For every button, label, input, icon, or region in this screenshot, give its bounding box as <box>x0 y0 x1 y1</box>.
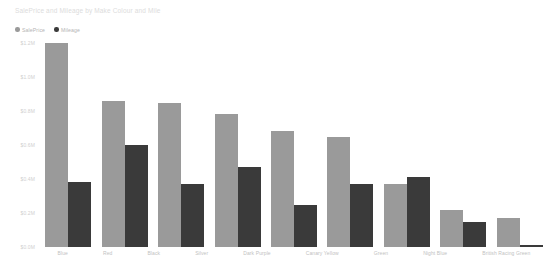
y-axis-tick-label: $0.0M <box>21 244 35 250</box>
bar-mileage[interactable] <box>181 184 204 247</box>
bar-mileage[interactable] <box>125 145 148 247</box>
y-axis-tick-label: $0.2M <box>21 210 35 216</box>
bar-mileage[interactable] <box>463 222 486 248</box>
bar-saleprice[interactable] <box>497 218 520 247</box>
bar-saleprice[interactable] <box>215 114 238 247</box>
x-axis-tick-label: Night Blue <box>423 250 447 256</box>
bar-group <box>271 43 317 247</box>
y-axis: $1.2M$1.0M$0.8M$0.6M$0.4M$0.2M$0.0M <box>0 36 40 251</box>
plot-area <box>40 43 548 247</box>
bar-saleprice[interactable] <box>158 103 181 248</box>
y-axis-tick-label: $0.6M <box>21 142 35 148</box>
bar-series-container <box>40 43 548 247</box>
bar-mileage[interactable] <box>294 205 317 248</box>
bar-saleprice[interactable] <box>102 101 125 247</box>
bar-group <box>45 43 91 247</box>
x-axis-tick-label: Black <box>147 250 160 256</box>
legend-swatch-icon <box>15 27 20 32</box>
y-axis-tick-label: $0.8M <box>21 108 35 114</box>
bar-chart-card: SalePrice and Mileage by Make Colour and… <box>0 0 556 268</box>
bar-saleprice[interactable] <box>327 137 350 248</box>
legend-item-saleprice[interactable]: SalePrice <box>15 27 45 33</box>
bar-group <box>327 43 373 247</box>
bar-saleprice[interactable] <box>440 210 463 247</box>
x-axis-tick-label: Dark Purple <box>243 250 271 256</box>
x-axis-tick-label: Canary Yellow <box>306 250 339 256</box>
bar-mileage[interactable] <box>238 167 261 247</box>
bar-group <box>158 43 204 247</box>
bar-mileage[interactable] <box>407 177 430 247</box>
bar-mileage[interactable] <box>68 182 91 247</box>
bar-mileage[interactable] <box>350 184 373 247</box>
bar-mileage[interactable] <box>520 245 543 247</box>
bar-group <box>215 43 261 247</box>
x-axis-tick-label: Red <box>103 250 112 256</box>
chart-title: SalePrice and Mileage by Make Colour and… <box>15 7 161 14</box>
x-axis: BlueRedBlackSilverDark PurpleCanary Yell… <box>40 250 548 264</box>
chart-legend: SalePriceMileage <box>15 25 80 34</box>
y-axis-tick-label: $1.2M <box>21 40 35 46</box>
legend-label: SalePrice <box>22 27 45 33</box>
legend-swatch-icon <box>54 27 59 32</box>
x-axis-tick-label: Green <box>374 250 388 256</box>
bar-group <box>497 43 543 247</box>
bar-group <box>384 43 430 247</box>
x-axis-tick-label: Silver <box>195 250 208 256</box>
legend-label: Mileage <box>61 27 80 33</box>
x-axis-tick-label: British Racing Green <box>482 250 530 256</box>
bar-saleprice[interactable] <box>271 131 294 247</box>
y-axis-tick-label: $1.0M <box>21 74 35 80</box>
bar-saleprice[interactable] <box>384 184 407 247</box>
y-axis-tick-label: $0.4M <box>21 176 35 182</box>
legend-item-mileage[interactable]: Mileage <box>54 27 80 33</box>
x-axis-tick-label: Blue <box>58 250 68 256</box>
bar-group <box>440 43 486 247</box>
bar-saleprice[interactable] <box>45 43 68 247</box>
bar-group <box>102 43 148 247</box>
